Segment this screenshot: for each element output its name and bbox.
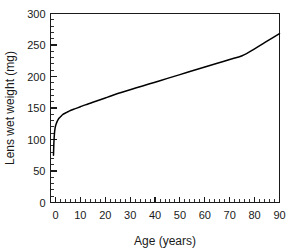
y-tick-label: 150 [27, 102, 45, 114]
chart-figure: 050100150200250300 0102030405060708090 A… [0, 0, 297, 250]
x-axis-major-ticks [55, 197, 279, 203]
data-series-layer [53, 34, 279, 156]
data-series-line [53, 34, 279, 156]
plot-frame [51, 14, 280, 203]
x-tick-label: 10 [74, 209, 86, 221]
y-axis-title: Lens wet weight (mg) [3, 51, 17, 165]
x-tick-label: 0 [52, 209, 58, 221]
x-tick-label: 90 [273, 209, 285, 221]
x-tick-label: 30 [124, 209, 136, 221]
x-tick-label: 20 [99, 209, 111, 221]
x-tick-label: 80 [248, 209, 260, 221]
y-tick-label: 250 [27, 39, 45, 51]
y-tick-label: 50 [33, 165, 45, 177]
y-axis-major-ticks [51, 14, 57, 203]
y-tick-label: 0 [39, 197, 45, 209]
line-chart: 050100150200250300 0102030405060708090 A… [0, 0, 297, 250]
x-tick-label: 40 [149, 209, 161, 221]
x-tick-label: 50 [174, 209, 186, 221]
x-tick-label: 60 [199, 209, 211, 221]
x-axis-tick-labels: 0102030405060708090 [52, 209, 285, 221]
y-tick-label: 300 [27, 8, 45, 20]
y-axis-tick-labels: 050100150200250300 [27, 8, 45, 209]
y-tick-label: 100 [27, 134, 45, 146]
x-tick-label: 70 [224, 209, 236, 221]
y-tick-label: 200 [27, 71, 45, 83]
x-axis-title: Age (years) [134, 234, 196, 248]
